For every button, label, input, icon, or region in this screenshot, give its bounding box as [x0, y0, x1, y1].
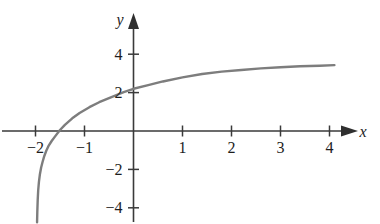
y-tick-label-2: −2 [105, 161, 122, 178]
x-tick-label-2: 1 [179, 139, 187, 156]
figure-canvas: −2−1123442−2−4xy [0, 0, 380, 224]
y-tick-label-3: −4 [105, 199, 122, 216]
y-axis-label: y [114, 11, 124, 29]
x-axis-label: x [358, 123, 366, 140]
y-tick-label-0: 4 [115, 46, 123, 63]
x-tick-label-1: −1 [76, 139, 93, 156]
x-tick-label-0: −2 [27, 139, 44, 156]
axes-group [2, 13, 358, 222]
x-tick-label-4: 3 [277, 139, 285, 156]
y-tick-label-1: 2 [115, 84, 123, 101]
x-tick-label-3: 2 [228, 139, 236, 156]
y-axis-arrow-icon [128, 13, 139, 29]
x-tick-label-5: 4 [326, 139, 334, 156]
log-function-graph: −2−1123442−2−4xy [0, 0, 380, 224]
x-axis-arrow-icon [341, 126, 358, 137]
